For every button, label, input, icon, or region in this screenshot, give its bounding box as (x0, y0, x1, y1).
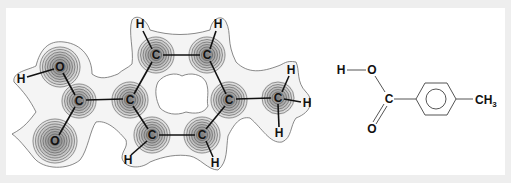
skeletal-o-bottom: O (367, 122, 376, 136)
skeletal-o-top: O (367, 63, 376, 77)
skeletal-labels: H O C O CH3 (337, 63, 498, 136)
figure: H O C O C C C C C C C H H H H H H H (0, 0, 511, 183)
skeletal-methyl: CH3 (475, 93, 497, 109)
skeletal-h: H (337, 63, 346, 77)
skeletal-methyl-subscript: 3 (492, 100, 497, 109)
skeletal-bonds (347, 70, 473, 124)
skeletal-formula: H O C O CH3 (0, 0, 511, 183)
skeletal-methyl-main: CH (475, 93, 492, 107)
skeletal-c: C (385, 92, 394, 106)
